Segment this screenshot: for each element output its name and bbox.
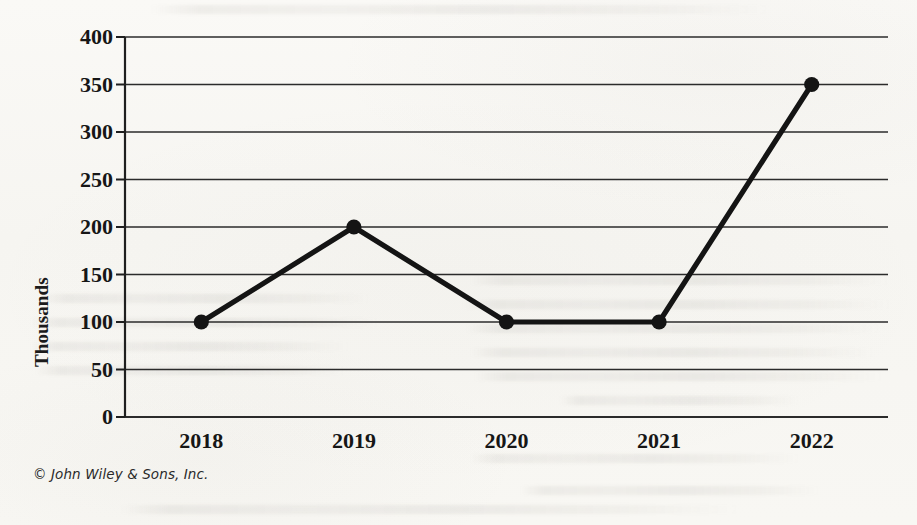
copyright-caption: © John Wiley & Sons, Inc.	[33, 466, 208, 482]
x-axis-tick-label: 2021	[599, 430, 719, 452]
x-axis-tick-label: 2020	[447, 430, 567, 452]
line-chart-figure: Thousands 050100150200250300350400 20182…	[0, 0, 917, 525]
x-axis-tick-label: 2019	[294, 430, 414, 452]
x-axis-tick-labels: 20182019202020212022	[0, 0, 917, 525]
x-axis-tick-label: 2022	[752, 430, 872, 452]
x-axis-tick-label: 2018	[141, 430, 261, 452]
